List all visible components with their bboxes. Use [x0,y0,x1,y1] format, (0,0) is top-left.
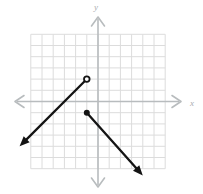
coordinate-plane-svg: y x [0,0,203,194]
rays [20,76,143,175]
open-endpoint [84,76,90,82]
ray-line [87,113,138,170]
axes [15,17,181,187]
upper-ray [20,76,90,146]
coordinate-plane-figure: y x [0,0,203,194]
lower-ray [84,110,143,176]
closed-endpoint [84,110,90,116]
x-axis-label: x [189,98,194,108]
y-axis-label: y [93,2,98,12]
